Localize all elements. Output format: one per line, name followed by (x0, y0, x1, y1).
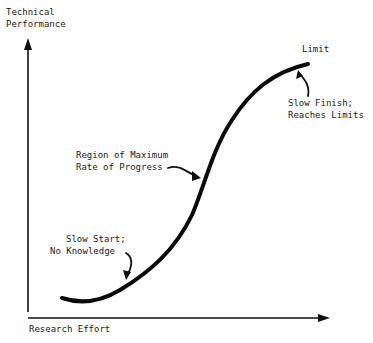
slow-finish-label-line1: Slow Finish; (288, 98, 353, 108)
y-axis-label-line2: Performance (6, 19, 66, 29)
y-axis-label-line1: Technical (6, 7, 55, 17)
max-rate-pointer (168, 167, 196, 176)
x-axis-arrowhead-icon (318, 314, 330, 322)
max-rate-label-line1: Region of Maximum (76, 150, 168, 160)
limit-label: Limit (302, 44, 329, 54)
max-rate-arrowhead-icon (192, 171, 201, 181)
slow-start-pointer (126, 253, 132, 274)
y-axis-arrowhead-icon (24, 38, 32, 50)
x-axis-label: Research Effort (29, 324, 110, 334)
s-curve (62, 64, 308, 301)
max-rate-label-line2: Rate of Progress (76, 162, 163, 172)
slow-start-label-line2: No Knowledge (50, 246, 115, 256)
slow-start-label-line1: Slow Start; (66, 234, 126, 244)
s-curve-diagram: Technical Performance Research Effort Li… (0, 0, 373, 343)
slow-finish-label-line2: Reaches Limits (288, 110, 364, 120)
slow-finish-pointer (300, 74, 308, 96)
